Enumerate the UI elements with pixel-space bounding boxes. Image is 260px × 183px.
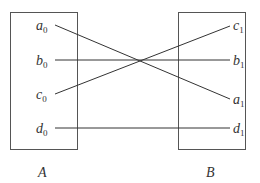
set-b-label: B (206, 165, 215, 180)
element-a1: a1 (233, 92, 245, 109)
element-d0: d0 (36, 121, 48, 138)
element-a0: a0 (36, 18, 48, 35)
element-b0: b0 (36, 53, 48, 70)
element-d1: d1 (233, 121, 245, 138)
element-c0: c0 (36, 87, 47, 104)
element-b1: b1 (233, 53, 245, 70)
set-a-label: A (37, 165, 47, 180)
mapping-diagram: a0 b0 c0 d0 c1 b1 a1 d1 A B (0, 0, 260, 183)
element-c1: c1 (233, 18, 244, 35)
